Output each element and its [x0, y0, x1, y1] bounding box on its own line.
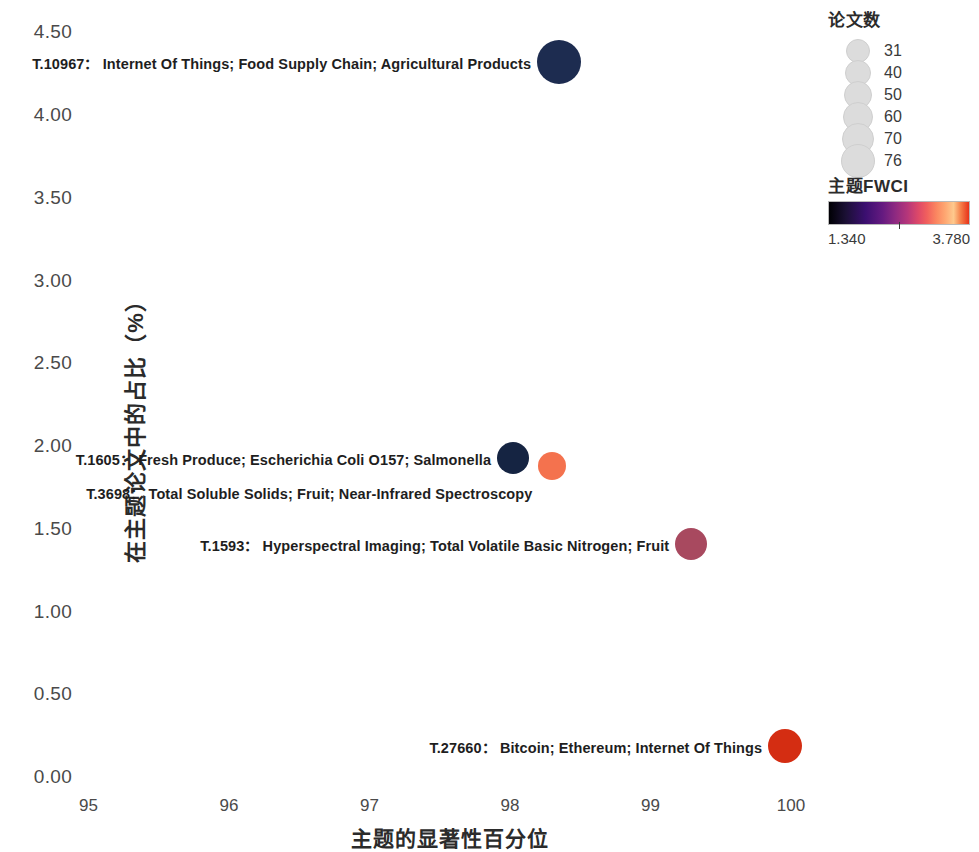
- x-axis-tick-label: 99: [641, 796, 660, 816]
- y-axis-tick-label: 3.50: [12, 187, 72, 209]
- data-point-bubble[interactable]: [538, 452, 566, 480]
- y-axis-tick-label: 1.50: [12, 518, 72, 540]
- size-legend-value: 40: [884, 64, 902, 82]
- y-axis-tick-label: 0.50: [12, 683, 72, 705]
- y-axis-tick-label: 2.00: [12, 435, 72, 457]
- data-point-bubble[interactable]: [537, 40, 581, 84]
- size-legend-items: 314050607076: [828, 35, 978, 175]
- y-axis-tick-label: 4.00: [12, 104, 72, 126]
- x-axis-tick-label: 95: [79, 796, 98, 816]
- x-axis-tick-label: 100: [777, 796, 805, 816]
- data-point-label: T.27660： Bitcoin; Ethereum; Internet Of …: [429, 735, 762, 756]
- data-point-label: T.3698： Total Soluble Solids; Fruit; Nea…: [86, 481, 532, 502]
- y-axis-tick-label: 2.50: [12, 352, 72, 374]
- y-axis-tick-labels: 0.000.501.001.502.002.503.003.504.004.50: [0, 0, 72, 852]
- data-point-bubble[interactable]: [675, 528, 707, 560]
- x-axis-title: 主题的显著性百分位: [0, 822, 900, 852]
- x-axis-tick-label: 98: [501, 796, 520, 816]
- data-point-label: T.1605： Fresh Produce; Escherichia Coli …: [76, 447, 491, 468]
- size-legend-value: 60: [884, 108, 902, 126]
- y-axis-tick-label: 4.50: [12, 21, 72, 43]
- colorbar-range-labels: 1.340 3.780: [828, 230, 970, 250]
- size-legend-title: 论文数: [828, 6, 978, 31]
- x-axis-tick-label: 97: [360, 796, 379, 816]
- colorbar-tick-marker: [899, 222, 900, 229]
- colorbar-min-label: 1.340: [828, 230, 866, 247]
- size-legend-value: 70: [884, 130, 902, 148]
- y-axis-tick-label: 3.00: [12, 270, 72, 292]
- y-axis-tick-label: 0.00: [12, 766, 72, 788]
- data-point-label: T.10967： Internet Of Things; Food Supply…: [32, 52, 531, 73]
- size-legend-value: 50: [884, 86, 902, 104]
- size-legend-value: 31: [884, 42, 902, 60]
- size-legend: 论文数 314050607076: [828, 6, 978, 175]
- data-point-bubble[interactable]: [497, 442, 529, 474]
- data-point-label: T.1593： Hyperspectral Imaging; Total Vol…: [200, 533, 669, 554]
- colorbar-max-label: 3.780: [932, 230, 970, 247]
- plot-area: [80, 10, 820, 780]
- data-point-bubble[interactable]: [768, 729, 802, 763]
- size-legend-value: 76: [884, 152, 902, 170]
- y-axis-tick-label: 1.00: [12, 601, 72, 623]
- x-axis-tick-label: 96: [220, 796, 239, 816]
- color-legend-title: 主题FWCI: [828, 172, 978, 197]
- color-legend: 主题FWCI 1.340 3.780: [828, 172, 978, 250]
- colorbar-gradient: [828, 201, 970, 225]
- bubble-chart: 在主题论文中的占比（%） 0.000.501.001.502.002.503.0…: [0, 0, 979, 852]
